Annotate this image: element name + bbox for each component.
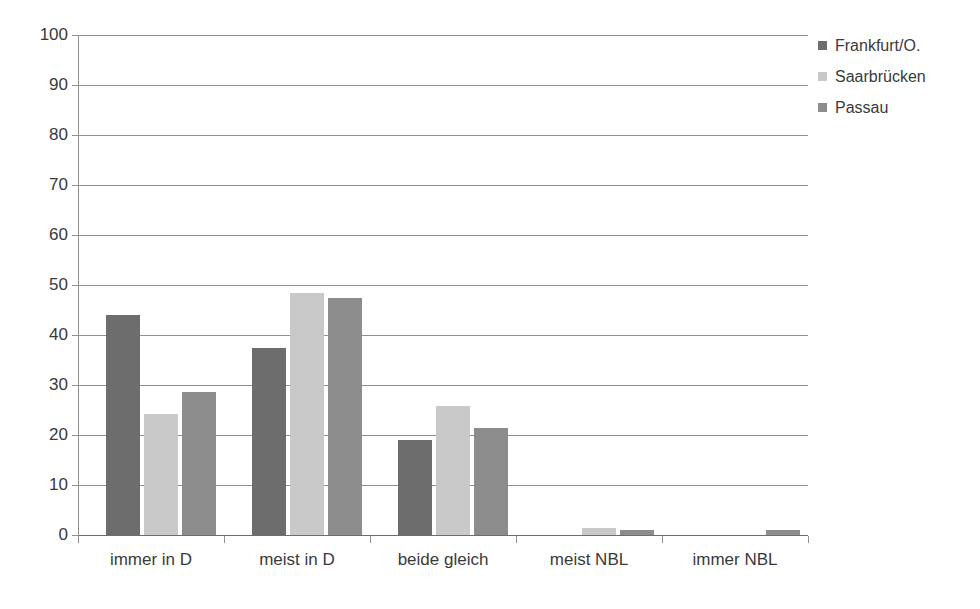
legend-item-1[interactable]: Saarbrücken [818,61,978,92]
x-axis-tick-0 [224,536,225,543]
y-axis-tick-90 [72,85,79,86]
y-axis-tick-labels: 0102030405060708090100 [10,0,68,609]
legend-label-0: Frankfurt/O. [835,38,920,54]
chart-legend: Frankfurt/O.SaarbrückenPassau [818,30,978,123]
y-axis-tick-80 [72,135,79,136]
x-axis-tick-origin [78,536,79,543]
bar-1-1 [290,293,324,536]
y-axis-tick-70 [72,185,79,186]
x-axis-label-3: meist NBL [516,551,662,568]
legend-item-2[interactable]: Passau [818,92,978,123]
y-axis-label-10: 10 [20,476,68,493]
y-axis-label-70: 70 [20,176,68,193]
x-axis-label-0: immer in D [78,551,224,568]
y-axis-label-90: 90 [20,76,68,93]
scan-remnant-text [0,0,980,8]
x-axis-tick-1 [370,536,371,543]
bar-group-3 [544,35,654,535]
bar-2-0 [398,440,432,535]
legend-swatch-icon-2 [818,103,827,112]
bar-0-0 [106,315,140,535]
y-axis-tick-20 [72,435,79,436]
bar-0-1 [144,414,178,535]
bar-2-2 [474,428,508,536]
y-axis-tick-10 [72,485,79,486]
y-axis-label-0: 0 [20,526,68,543]
y-axis-label-30: 30 [20,376,68,393]
bar-group-1 [252,35,362,535]
y-axis-label-60: 60 [20,226,68,243]
x-axis-tick-2 [516,536,517,543]
bar-3-2 [620,530,654,536]
y-axis-tick-60 [72,235,79,236]
bar-2-1 [436,406,470,535]
y-axis-label-80: 80 [20,126,68,143]
gridline-0 [78,535,808,536]
legend-item-0[interactable]: Frankfurt/O. [818,30,978,61]
y-axis-label-40: 40 [20,326,68,343]
x-axis-label-4: immer NBL [662,551,808,568]
bar-3-1 [582,528,616,535]
y-axis-label-50: 50 [20,276,68,293]
bar-group-4 [690,35,800,535]
bar-group-0 [106,35,216,535]
y-axis-tick-30 [72,385,79,386]
y-axis-label-100: 100 [20,26,68,43]
y-axis-tick-40 [72,335,79,336]
x-axis-label-1: meist in D [224,551,370,568]
x-axis-label-2: beide gleich [370,551,516,568]
legend-swatch-icon-1 [818,72,827,81]
bar-4-2 [766,530,800,536]
chart-figure: 0102030405060708090100 Frankfurt/O.Saarb… [0,0,980,609]
bar-1-0 [252,348,286,535]
bar-group-2 [398,35,508,535]
legend-swatch-icon-0 [818,41,827,50]
legend-label-1: Saarbrücken [835,69,926,85]
y-axis-tick-50 [72,285,79,286]
bar-1-2 [328,298,362,536]
plot-area [78,35,808,535]
bar-0-2 [182,392,216,535]
x-axis-tick-4 [808,536,809,543]
y-axis-label-20: 20 [20,426,68,443]
x-axis-tick-3 [662,536,663,543]
y-axis-tick-100 [72,35,79,36]
legend-label-2: Passau [835,100,888,116]
